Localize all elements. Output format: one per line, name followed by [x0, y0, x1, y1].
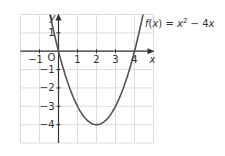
minus-coefficient: − 4 [187, 18, 208, 29]
term-x: x [208, 18, 215, 29]
x-tick-label: 3 [112, 54, 118, 65]
function-label: f(x) = x2 − 4x [145, 17, 215, 29]
origin-label: O [48, 52, 56, 63]
y-tick-label: −1 [40, 64, 55, 75]
x-axis-label: x [149, 54, 156, 65]
y-tick-label: 1 [48, 27, 54, 38]
y-tick-label: −3 [40, 101, 55, 112]
y-tick-label: −4 [40, 119, 55, 130]
x-tick-label: 2 [93, 54, 99, 65]
y-tick-label: −2 [40, 82, 55, 93]
y-axis-label: y [49, 12, 57, 23]
x-tick-label: 1 [74, 54, 80, 65]
equals-sign: = [162, 18, 177, 29]
x-tick-label: 4 [131, 54, 137, 65]
function-graph: −112341−1−2−3−4 x y O f(x) = x2 − 4x [0, 0, 225, 156]
